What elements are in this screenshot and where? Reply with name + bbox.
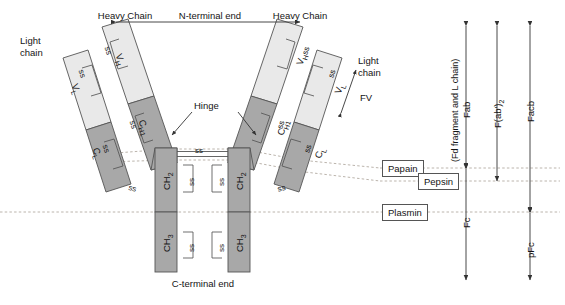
domain-label-ch3-right: CH3 — [234, 234, 249, 252]
ss-label-7: ss — [186, 244, 197, 252]
fragment-sublabel-fab: (Fd fragment and L chain) — [450, 59, 461, 162]
heavy-chain-right-label: Heavy Chain — [245, 10, 355, 21]
ss-label-14: ss — [216, 244, 227, 252]
domain-label-ch2-left: CH2 — [161, 172, 176, 190]
fragment-label-fab2: F(ab')2 — [492, 100, 507, 128]
domain-label-ch3-left: CH3 — [161, 234, 176, 252]
left-heavy-chain-stem — [151, 148, 177, 272]
fragment-label-facb: Facb — [525, 101, 536, 122]
fragment-label-pfc: pFc — [525, 242, 536, 258]
light-chain-left-label-line2: chain — [20, 47, 43, 58]
antibody-diagram: Heavy Chain N-terminal end Heavy Chain L… — [0, 0, 565, 305]
fv-label: FV — [360, 92, 372, 103]
light-chain-right-label-line2: chain — [358, 67, 381, 78]
c-terminal-label: C-terminal end — [148, 278, 258, 289]
hinge-label: Hinge — [194, 100, 219, 111]
right-heavy-chain-stem — [228, 148, 254, 272]
ss-label-6: ss — [186, 178, 197, 186]
ss-label-hinge: ss — [195, 145, 203, 156]
enzyme-box-plasmin[interactable]: Plasmin — [382, 204, 428, 221]
fragment-bracket-lines — [466, 26, 530, 280]
domain-label-ch2-right: CH2 — [234, 172, 249, 190]
ss-label-13: ss — [216, 178, 227, 186]
antibody-svg — [0, 0, 565, 305]
fragment-label-fab: Fab — [461, 102, 472, 118]
light-chain-left-label-line1: Light — [20, 35, 41, 46]
fragment-label-fc: Fc — [461, 217, 472, 228]
enzyme-box-pepsin[interactable]: Pepsin — [418, 173, 459, 190]
light-chain-right-label-line1: Light — [358, 55, 379, 66]
